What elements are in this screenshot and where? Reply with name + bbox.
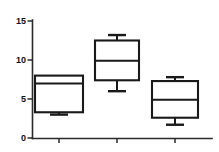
box-group xyxy=(35,35,198,125)
boxplot-chart: 051015 xyxy=(0,0,219,152)
y-axis-ticks: 051015 xyxy=(16,16,33,143)
y-tick-label: 0 xyxy=(21,133,26,143)
y-tick-label: 10 xyxy=(16,55,26,65)
y-tick-label: 5 xyxy=(21,94,26,104)
plot-area: 051015 xyxy=(0,0,219,152)
box-body xyxy=(35,76,83,113)
y-tick-label: 15 xyxy=(16,16,26,26)
box-plot-item xyxy=(152,77,198,125)
box-plot-item xyxy=(35,76,83,115)
box-plot-item xyxy=(95,35,139,91)
